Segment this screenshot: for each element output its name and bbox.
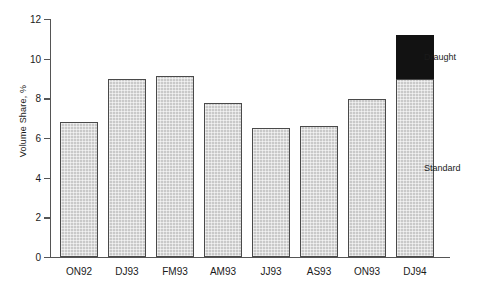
bar-segment-standard[interactable] [348, 99, 386, 257]
bar-segment-standard[interactable] [204, 103, 242, 257]
bar-chart: Volume Share, % 024681012 ON92DJ93FM93AM… [0, 0, 477, 289]
annotation-standard: Standard [424, 163, 461, 173]
y-axis-tick [44, 257, 51, 258]
x-axis-tick-label: DJ94 [385, 266, 445, 277]
plot-area [50, 19, 450, 257]
y-axis-tick-label: 4 [7, 172, 41, 183]
y-axis-tick-label: 12 [7, 14, 41, 25]
y-axis-title: Volume Share, % [18, 56, 28, 186]
x-axis-line [50, 257, 450, 258]
y-axis-tick-label: 8 [7, 93, 41, 104]
y-axis-tick-label: 2 [7, 212, 41, 223]
bar-segment-standard[interactable] [60, 122, 98, 257]
bar-segment-standard[interactable] [252, 128, 290, 257]
y-axis-tick-label: 6 [7, 133, 41, 144]
y-axis-tick-label: 0 [7, 252, 41, 263]
bar-segment-standard[interactable] [300, 126, 338, 257]
bar-segment-standard[interactable] [156, 76, 194, 257]
annotation-draught: Draught [424, 52, 456, 62]
bar-segment-standard[interactable] [108, 79, 146, 258]
y-axis-tick-label: 10 [7, 53, 41, 64]
